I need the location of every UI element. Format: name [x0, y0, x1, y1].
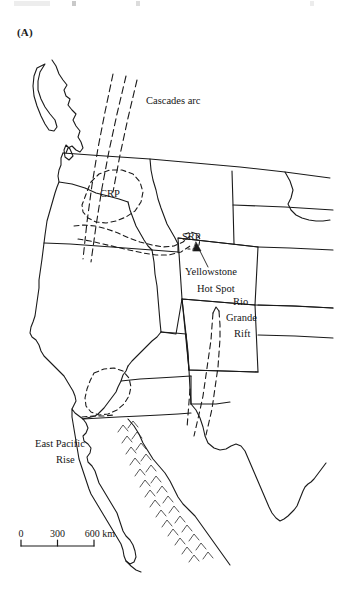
southern-california-dashed-outline: [85, 368, 131, 415]
label-crp: CRP: [100, 188, 120, 199]
chevron: [169, 506, 179, 513]
rift-dash-3: [187, 389, 190, 428]
cascades-arc-dash-1: [83, 74, 113, 259]
scale-label-0: 0: [19, 528, 24, 539]
cascades-arc-dash-3: [113, 80, 137, 192]
chevron: [157, 486, 167, 493]
gulf-coast-eastern-edge: [285, 172, 330, 221]
pacific-northwest-coast: [52, 60, 83, 153]
chevron: [182, 547, 192, 554]
chevron: [203, 552, 213, 559]
nevada-southern-corner: [128, 332, 161, 366]
chevron: [163, 496, 173, 503]
mexico-mainland-coast: [128, 419, 230, 565]
arizona-new-mexico-border: [186, 334, 191, 404]
chevron: [151, 476, 161, 483]
chevron: [140, 480, 150, 487]
texas-rio-grande-border: [191, 404, 326, 521]
new-mexico-south-border: [189, 370, 258, 372]
canada-us-border: [63, 153, 330, 178]
chevron: [136, 443, 146, 450]
chevron: [118, 425, 128, 432]
colorado-east-extension: [258, 305, 333, 308]
chevron: [126, 447, 136, 454]
nebraska-north-border: [258, 247, 333, 250]
label-srp: SRP: [182, 231, 201, 242]
label-yellowstone-line1: Yellowstone: [185, 266, 237, 277]
chevron: [162, 520, 172, 527]
chevron: [189, 534, 199, 541]
chevron: [175, 516, 185, 523]
utah-nevada-wyoming-corner: [161, 299, 182, 334]
label-rio-line3: Rift: [234, 328, 250, 339]
gulf-head-dashed: [82, 415, 114, 417]
label-epr-line2: Rise: [56, 454, 75, 465]
chevron: [168, 529, 178, 536]
rift-dash-2: [206, 311, 220, 435]
vancouver-island-outline: [33, 64, 57, 131]
idaho-western-border: [128, 202, 152, 250]
chevron: [146, 465, 156, 472]
new-mexico-texas-corner: [191, 376, 230, 404]
scale-label-300: 300: [50, 528, 65, 539]
idaho-eastern-border: [150, 159, 178, 252]
cascades-arc-dash-2: [91, 76, 126, 262]
rift-apex-solid: [213, 307, 219, 313]
figure-panel-a: (A): [0, 0, 337, 589]
arizona-mexico-border: [121, 376, 191, 381]
chevron: [182, 525, 192, 532]
map-canvas: Cascades arc CRP SRP Yellowstone Hot Spo…: [0, 0, 337, 589]
label-yellowstone-line2: Hot Spot: [197, 283, 235, 294]
chevron: [130, 458, 140, 465]
chevron: [145, 490, 155, 497]
scale-bar-group: [21, 540, 94, 546]
chevron: [175, 538, 185, 545]
dakota-divide: [233, 205, 333, 210]
rio-grande-rift-dashed-group: [194, 311, 220, 436]
spreading-ridge-chevrons: [118, 421, 213, 562]
chevron: [196, 543, 206, 550]
montana-dakota-border: [232, 171, 234, 244]
cascades-arc-dashed-group: [83, 74, 137, 262]
chevron: [135, 469, 145, 476]
chevron: [189, 555, 199, 562]
label-cascades-arc: Cascades arc: [146, 95, 201, 106]
srp-dashed-outline-lower: [78, 239, 190, 255]
scale-label-600: 600 km: [85, 528, 116, 539]
oregon-southern-border: [44, 243, 178, 252]
colorado-kansas-line: [258, 335, 333, 338]
chevron: [156, 510, 166, 517]
chevron: [122, 436, 132, 443]
chevron: [150, 500, 160, 507]
nevada-utah-border: [152, 250, 161, 332]
label-epr-line1: East Pacific: [35, 438, 85, 449]
srp-dashed-outline: [74, 225, 190, 247]
label-rio-line1: Rio: [233, 296, 248, 307]
puget-sound-inlet: [64, 145, 73, 160]
pacific-coastline: [30, 153, 76, 409]
rift-dash-1: [194, 313, 213, 436]
chevron: [141, 454, 151, 461]
label-rio-line2: Grande: [226, 312, 257, 323]
southern-california-coast: [72, 409, 136, 564]
